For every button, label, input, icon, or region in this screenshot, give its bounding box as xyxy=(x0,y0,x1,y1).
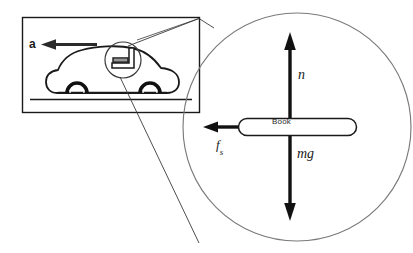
static-friction-label: fs xyxy=(216,138,223,155)
figure-canvas xyxy=(0,0,413,253)
weight-force-arrow xyxy=(284,130,296,221)
book-label: Book xyxy=(272,118,291,126)
physics-figure: a n mg fs Book xyxy=(0,0,413,253)
book-shape xyxy=(239,119,357,136)
normal-force-label: n xyxy=(298,68,305,82)
normal-force-arrow xyxy=(284,32,296,124)
weight-force-label: mg xyxy=(297,147,314,161)
friction-subscript: s xyxy=(220,147,224,157)
acceleration-label: a xyxy=(29,38,36,50)
